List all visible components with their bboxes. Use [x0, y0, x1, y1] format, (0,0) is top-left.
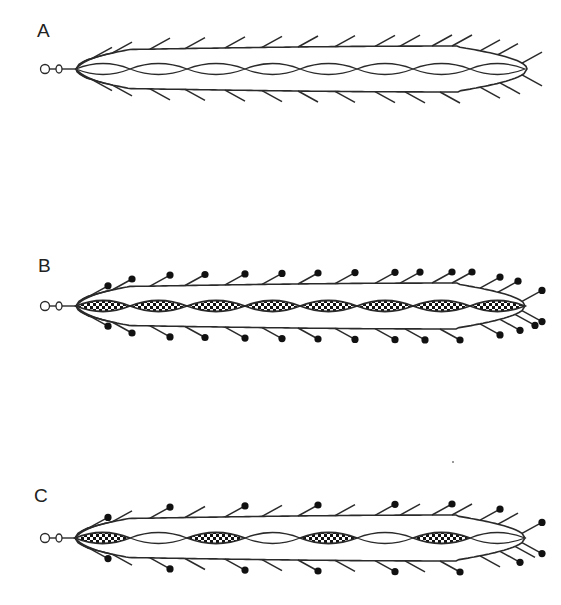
panel-label-b: B: [38, 256, 51, 275]
top-seta: [150, 38, 170, 49]
bottom-seta: [185, 89, 205, 100]
segment-1-checkered: [75, 533, 130, 544]
seta-dot: [516, 559, 523, 566]
seta-dot: [538, 550, 545, 557]
seta-dot: [514, 278, 521, 285]
segment-7-plain: [413, 64, 470, 75]
seta-dot: [278, 270, 285, 277]
bottom-seta: [375, 92, 395, 103]
segment-8-checkered: [470, 301, 525, 312]
top-seta: [400, 35, 420, 46]
seta-dot: [314, 501, 321, 508]
top-seta: [432, 35, 452, 46]
diagram-figure: A B C: [0, 0, 561, 605]
head-circle: [41, 534, 50, 543]
top-seta: [375, 35, 395, 46]
top-seta: [480, 40, 500, 51]
seta-dot: [104, 514, 111, 521]
top-seta: [185, 38, 205, 49]
panel-b: [41, 268, 546, 343]
segment-3-checkered: [187, 301, 245, 312]
seta-dot: [104, 282, 111, 289]
segment-6-checkered: [357, 301, 413, 312]
head-circle: [41, 302, 50, 311]
seta-dot: [104, 555, 111, 562]
head-small-circle: [56, 65, 62, 73]
seta-dot: [448, 500, 455, 507]
top-seta: [225, 37, 245, 48]
seta-dot: [314, 335, 321, 342]
bottom-seta: [522, 75, 542, 86]
bottom-seta: [500, 83, 520, 94]
seta-dot: [496, 331, 503, 338]
bottom-seta: [185, 559, 205, 570]
segment-2-plain: [130, 64, 187, 75]
top-seta: [262, 505, 282, 516]
bottom-seta: [298, 91, 318, 102]
seta-dot: [201, 334, 208, 341]
seta-dot: [496, 506, 503, 513]
segment-4-plain: [245, 64, 300, 75]
seta-dot: [456, 336, 463, 343]
segment-3-plain: [187, 64, 245, 75]
segment-5-checkered: [300, 301, 357, 312]
seta-dot: [391, 269, 398, 276]
head-circle: [41, 65, 50, 74]
panel-label-c: C: [34, 486, 48, 505]
bottom-seta: [405, 561, 425, 572]
seta-dot: [314, 567, 321, 574]
seta-dot: [166, 333, 173, 340]
seta-dot: [351, 269, 358, 276]
seta-dot: [416, 269, 423, 276]
segment-3-checkered: [187, 533, 245, 544]
seta-dot: [538, 287, 545, 294]
seta-dot: [104, 323, 111, 330]
seta-dot: [456, 568, 463, 575]
seta-dot: [128, 329, 135, 336]
seta-dot: [278, 335, 285, 342]
bottom-seta: [262, 91, 282, 102]
seta-dot: [241, 502, 248, 509]
segment-2-checkered: [130, 301, 187, 312]
seta-dot: [128, 275, 135, 282]
seta-dot: [531, 322, 538, 329]
seta-dot: [391, 568, 398, 575]
panel-a: [41, 35, 543, 103]
seta-dot: [314, 269, 321, 276]
segment-1-plain: [76, 64, 130, 75]
top-seta: [335, 505, 355, 516]
panel-c: [41, 500, 546, 575]
seta-dot: [166, 565, 173, 572]
segment-6-plain: [357, 533, 413, 544]
segment-7-checkered: [413, 533, 470, 544]
seta-dot: [516, 327, 523, 334]
speck: [452, 461, 454, 463]
seta-dot: [496, 274, 503, 281]
top-seta: [498, 44, 518, 55]
bottom-seta: [262, 560, 282, 571]
segment-7-checkered: [413, 301, 470, 312]
segment-8-plain: [470, 64, 525, 75]
seta-dot: [468, 268, 475, 275]
seta-dot: [241, 567, 248, 574]
bottom-seta: [480, 87, 500, 98]
seta-dot: [201, 271, 208, 278]
bottom-seta: [92, 80, 112, 91]
bottom-seta: [335, 91, 355, 102]
seta-dot: [421, 336, 428, 343]
top-seta: [452, 35, 472, 46]
bottom-seta: [440, 92, 460, 103]
bottom-seta: [150, 89, 170, 100]
segment-8-plain: [470, 533, 525, 544]
bottom-seta: [225, 90, 245, 101]
seta-dot: [538, 318, 545, 325]
head-small-circle: [56, 302, 62, 310]
segment-4-plain: [245, 533, 300, 544]
seta-dot: [448, 268, 455, 275]
seta-dot: [166, 504, 173, 511]
head-small-circle: [56, 534, 62, 542]
seta-dot: [391, 501, 398, 508]
segmented-body-diagram: [0, 0, 561, 605]
top-seta: [298, 36, 318, 47]
top-seta: [522, 52, 542, 63]
